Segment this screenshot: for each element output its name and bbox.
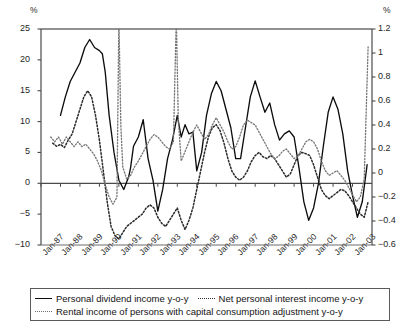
legend-label: Net personal interest income y-o-y (219, 293, 364, 305)
legend-entry[interactable]: Personal dividend income y-o-y (35, 293, 189, 305)
dotted-line-icon (198, 295, 215, 302)
series-line-1 (60, 39, 367, 220)
legend: Personal dividend income y-o-yNet person… (30, 288, 390, 321)
fine-dotted-line-icon (35, 308, 52, 315)
legend-label: Personal dividend income y-o-y (56, 293, 189, 305)
solid-line-icon (35, 295, 52, 302)
legend-entry[interactable]: Rental income of persons with capital co… (35, 306, 343, 318)
legend-row: Personal dividend income y-o-yNet person… (35, 292, 385, 305)
chart-figure: % % 2520151050−5−10 1.210.80.60.40.20−0.… (0, 0, 414, 329)
series-group (51, 17, 368, 239)
legend-label: Rental income of persons with capital co… (56, 306, 343, 318)
legend-entry[interactable]: Net personal interest income y-o-y (198, 293, 364, 305)
series-line-3 (51, 17, 368, 204)
plot-area (0, 0, 414, 329)
legend-row: Rental income of persons with capital co… (35, 305, 385, 318)
